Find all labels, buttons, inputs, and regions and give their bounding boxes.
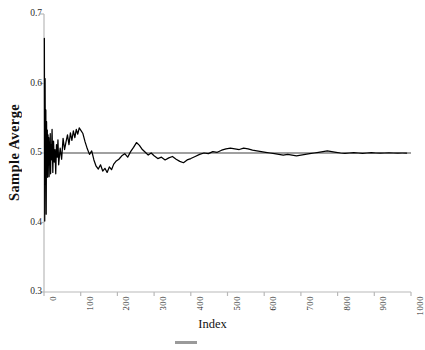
legend-swatch-icon (175, 341, 197, 344)
y-tick-label: 0.7 (20, 8, 42, 18)
x-axis-title: Index (0, 317, 425, 332)
x-tick-label: 400 (195, 296, 205, 311)
chart-legend (175, 341, 203, 344)
x-tick-label: 700 (305, 296, 315, 311)
x-tick-label: 600 (268, 296, 278, 311)
chart-figure: 0.70.60.50.40.3 010020030040050060070080… (0, 0, 425, 350)
x-tick-label: 100 (85, 296, 95, 311)
plot-canvas (0, 0, 425, 350)
y-tick-label: 0.3 (20, 286, 42, 296)
x-tick-label: 800 (342, 296, 352, 311)
x-tick-label: 300 (158, 296, 168, 311)
x-tick-label: 500 (232, 296, 242, 311)
x-tick-label: 1000 (415, 296, 425, 315)
x-tick-label: 200 (121, 296, 131, 311)
x-tick-label: 0 (48, 296, 58, 301)
x-tick-label: 900 (378, 296, 388, 311)
sample-average-series (44, 38, 406, 221)
y-axis-title: Sample Averge (2, 62, 26, 242)
